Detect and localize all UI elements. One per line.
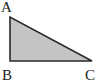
vertex-label-a: A — [1, 0, 12, 15]
vertex-label-b: B — [2, 67, 12, 83]
vertex-label-c: C — [85, 67, 95, 83]
triangle-abc — [10, 17, 92, 61]
triangle-diagram: A B C — [0, 0, 97, 83]
